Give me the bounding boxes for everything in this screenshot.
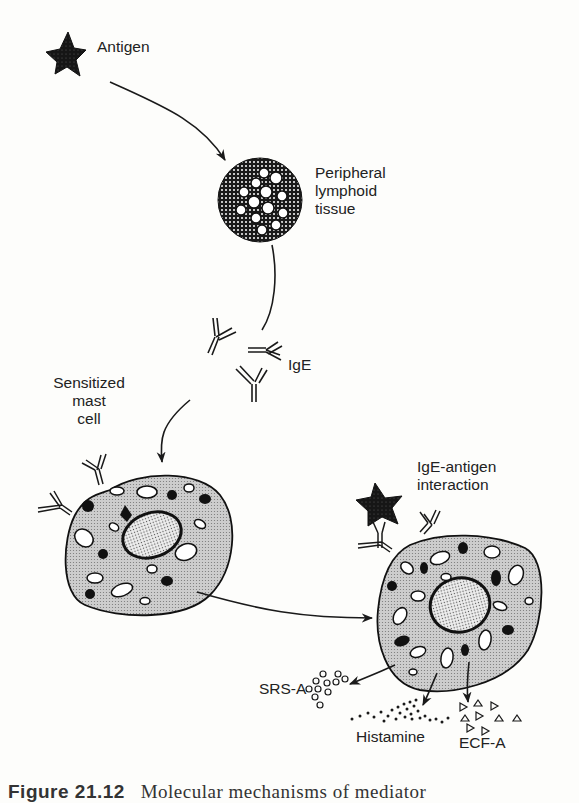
srsa-label: SRS-A <box>259 680 306 698</box>
histamine-label: Histamine <box>356 728 425 746</box>
line-tissue-to-ige <box>262 245 275 330</box>
sensitized-mast-cell <box>38 454 232 615</box>
tissue-label-line3: tissue <box>315 200 386 218</box>
sensitized-mast-cell-label: Sensitized mast cell <box>44 374 134 428</box>
figure-number: Figure 21.12 <box>8 781 125 802</box>
tissue-label: Peripheral lymphoid tissue <box>315 164 386 218</box>
figure-caption: Figure 21.12 Molecular mechanisms of med… <box>8 781 426 803</box>
antigen-star-icon <box>46 32 86 76</box>
antigen-label: Antigen <box>97 38 150 56</box>
tissue-label-line2: lymphoid <box>315 182 386 200</box>
histamine-particles-icon <box>351 699 450 724</box>
interaction-label-line1: IgE-antigen <box>417 458 496 476</box>
arrow-to-activated-cell <box>197 592 372 618</box>
mast-label-line3: cell <box>44 410 134 428</box>
interaction-label-line2: interaction <box>417 476 496 494</box>
arrow-antigen-to-tissue <box>110 82 225 160</box>
ige-antibody-icons <box>208 318 282 402</box>
ige-antigen-interaction-label: IgE-antigen interaction <box>417 458 496 494</box>
ige-label: IgE <box>288 356 311 374</box>
mast-label-line1: Sensitized <box>44 374 134 392</box>
activated-mast-cell <box>356 483 542 691</box>
mast-label-line2: mast <box>44 392 134 410</box>
lymphoid-tissue-icon <box>218 158 302 242</box>
ecfa-label: ECF-A <box>459 734 506 752</box>
ecfa-particles-icon <box>460 700 521 735</box>
arrow-srsa-release <box>350 665 395 684</box>
tissue-label-line1: Peripheral <box>315 164 386 182</box>
arrow-ige-to-mast-cell <box>161 400 190 462</box>
bound-antigen-star-icon <box>356 483 402 526</box>
figure-caption-text: Molecular mechanisms of mediator <box>141 781 427 802</box>
srsa-particles-icon <box>306 671 348 708</box>
